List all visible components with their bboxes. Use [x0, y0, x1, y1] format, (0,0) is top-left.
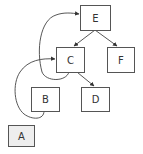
node-e[interactable]: E	[81, 6, 111, 31]
graph-diagram: E C F B D A	[0, 0, 143, 154]
node-b[interactable]: B	[32, 88, 60, 112]
node-a[interactable]: A	[9, 126, 35, 147]
node-c[interactable]: C	[57, 48, 85, 73]
node-a-label: A	[18, 131, 25, 142]
node-f[interactable]: F	[108, 48, 135, 73]
edge-e-to-f	[95, 30, 117, 46]
node-d-label: D	[92, 94, 100, 105]
node-b-label: B	[42, 94, 49, 105]
edge-e-to-c	[74, 30, 95, 46]
node-f-label: F	[118, 55, 124, 66]
node-c-label: C	[67, 55, 74, 66]
node-d[interactable]: D	[82, 88, 110, 112]
node-e-label: E	[92, 13, 98, 24]
